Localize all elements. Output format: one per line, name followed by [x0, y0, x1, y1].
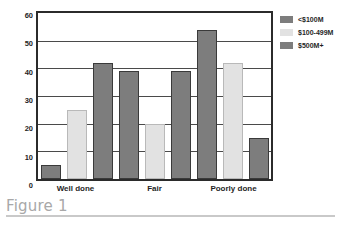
legend-label: <$100M — [298, 16, 324, 23]
y-axis-tick: 30 — [11, 97, 33, 105]
legend-item[interactable]: $100-499M — [280, 26, 341, 38]
legend-swatch-icon — [280, 42, 293, 49]
figure-container: 6050403020100 Well doneFairPoorly done <… — [0, 0, 341, 227]
bar[interactable] — [145, 124, 165, 179]
bar[interactable] — [249, 138, 269, 180]
bar[interactable] — [197, 30, 217, 179]
legend-swatch-icon — [280, 16, 293, 23]
bar[interactable] — [93, 63, 113, 179]
bar[interactable] — [223, 63, 243, 179]
bar-chart: 6050403020100 Well doneFairPoorly done <… — [8, 6, 333, 192]
bar[interactable] — [41, 165, 61, 179]
x-axis-label: Well done — [36, 184, 115, 193]
y-axis-tick: 0 — [11, 182, 33, 190]
y-axis-tick: 60 — [11, 12, 33, 20]
bar[interactable] — [119, 71, 139, 179]
caption-label: Figure 1 — [6, 198, 68, 215]
y-axis-tick: 50 — [11, 40, 33, 48]
bar-group — [116, 13, 194, 179]
bar[interactable] — [171, 71, 191, 179]
x-axis-label: Poorly done — [194, 184, 273, 193]
bar-groups — [38, 13, 271, 179]
legend-label: $100-499M — [298, 29, 333, 36]
legend-label: $500M+ — [298, 42, 324, 49]
plot-area — [36, 11, 273, 181]
bar[interactable] — [67, 110, 87, 179]
caption-divider — [6, 215, 335, 217]
y-axis-tick: 10 — [11, 154, 33, 162]
y-axis-tick: 40 — [11, 69, 33, 77]
bar-group — [194, 13, 272, 179]
x-axis-label: Fair — [115, 184, 194, 193]
y-axis-tick: 20 — [11, 125, 33, 133]
y-axis: 6050403020100 — [8, 11, 33, 181]
chart-legend: <$100M$100-499M$500M+ — [280, 13, 341, 52]
bar-group — [38, 13, 116, 179]
legend-swatch-icon — [280, 29, 293, 36]
legend-item[interactable]: $500M+ — [280, 39, 341, 51]
legend-item[interactable]: <$100M — [280, 13, 341, 25]
figure-caption: Figure 1 — [6, 198, 335, 222]
x-axis-labels: Well doneFairPoorly done — [36, 184, 273, 193]
